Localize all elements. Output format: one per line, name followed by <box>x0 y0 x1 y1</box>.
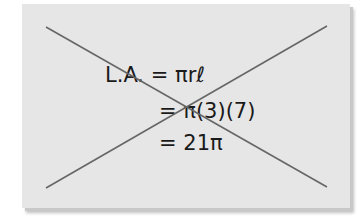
cross-out-icon <box>0 0 361 218</box>
